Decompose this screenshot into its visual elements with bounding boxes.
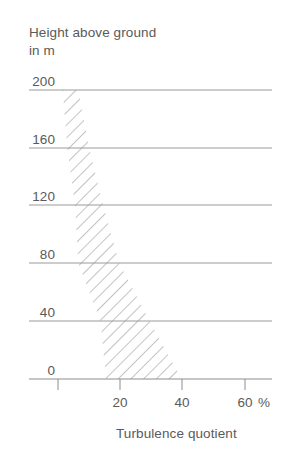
data-band-turbulence-quotient [55, 85, 190, 385]
y-tick-label-200: 200 [11, 75, 55, 89]
chart-figure: Height above ground in m [0, 0, 286, 474]
y-tick-label-120: 120 [11, 190, 55, 204]
y-tick-label-40: 40 [11, 306, 55, 320]
x-axis-ticks [58, 379, 245, 390]
x-axis-unit-percent: % [258, 396, 270, 410]
y-tick-label-80: 80 [11, 248, 55, 262]
x-tick-label-40: 40 [162, 396, 202, 410]
y-tick-label-0: 0 [11, 364, 55, 378]
y-tick-label-160: 160 [11, 133, 55, 147]
x-tick-label-20: 20 [100, 396, 140, 410]
x-axis-caption: Turbulence quotient [116, 427, 237, 441]
